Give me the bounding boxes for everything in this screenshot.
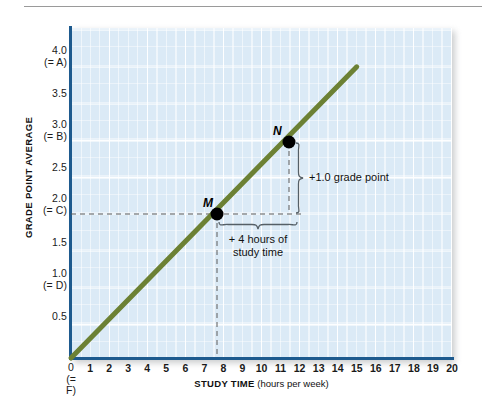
point-label-m: M: [203, 196, 213, 210]
x-axis-title-main: STUDY TIME: [194, 378, 254, 389]
top-divider-rule: [24, 6, 482, 7]
y-tick-3.0: 3.0 (= B): [11, 119, 67, 142]
chart-figure: GRADE POINT AVERAGE 4.0 (= A) 3.5 3.0 (=…: [0, 0, 482, 413]
y-tick-0.5: 0.5: [11, 311, 67, 323]
major-gridlines: [71, 28, 452, 358]
annotation-study-time-line2: study time: [233, 246, 283, 258]
annotation-study-time: + 4 hours of study time: [203, 233, 313, 259]
y-tick-4.0: 4.0 (= A): [11, 45, 67, 68]
x-axis-tick-labels: 1234567891011121314151617181920: [0, 362, 482, 378]
x-axis-line: [69, 357, 454, 360]
y-tick-1.5: 1.5: [11, 237, 67, 249]
y-tick-1.0: 1.0 (= D): [11, 268, 67, 291]
x-tick-20: 20: [441, 362, 463, 374]
annotation-grade-point: +1.0 grade point: [309, 171, 389, 184]
annotation-study-time-line1: + 4 hours of: [229, 233, 287, 245]
y-axis-tick-labels: 4.0 (= A) 3.5 3.0 (= B) 2.5 2.0 (= C) 1.…: [5, 0, 67, 413]
plot-area: [71, 28, 452, 358]
x-axis-title: STUDY TIME (hours per week): [71, 378, 452, 389]
x-axis-title-unit: (hours per week): [255, 378, 329, 389]
y-tick-2.5: 2.5: [11, 162, 67, 174]
y-tick-2.0: 2.0 (= C): [11, 193, 67, 216]
point-label-n: N: [273, 124, 282, 138]
y-axis-line: [69, 26, 72, 360]
y-tick-3.5: 3.5: [11, 88, 67, 100]
